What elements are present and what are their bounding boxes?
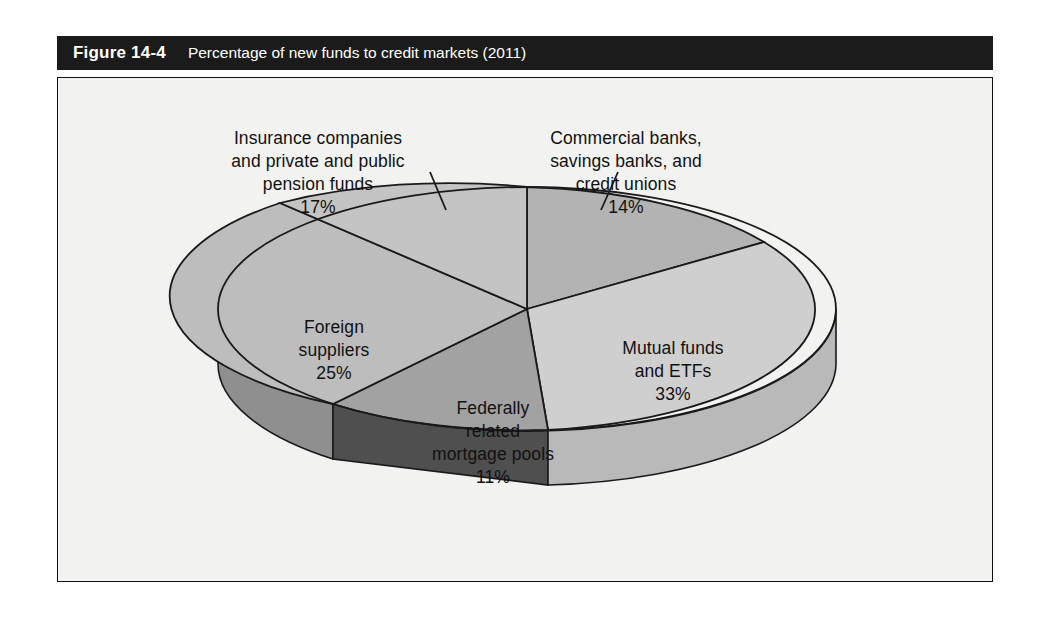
figure-number: Figure 14-4 bbox=[73, 43, 166, 63]
pie-label-federal-percent: 11% bbox=[388, 466, 598, 489]
pie-label-mutual-text: Mutual funds and ETFs bbox=[622, 338, 723, 381]
pie-label-federal-text: Federally related mortgage pools bbox=[432, 398, 554, 464]
pie-label-federal-mortgage-pools: Federally related mortgage pools 11% bbox=[388, 374, 598, 512]
pie-label-commercial-text: Commercial banks, savings banks, and cre… bbox=[550, 128, 702, 194]
figure-page: Figure 14-4 Percentage of new funds to c… bbox=[0, 0, 1050, 622]
pie-label-mutual-percent: 33% bbox=[578, 383, 768, 406]
pie-label-foreign-text: Foreign suppliers bbox=[299, 317, 370, 360]
pie-label-insurance-text: Insurance companies and private and publ… bbox=[231, 128, 404, 194]
pie-label-insurance-pension: Insurance companies and private and publ… bbox=[186, 104, 450, 242]
chart-panel: Insurance companies and private and publ… bbox=[57, 77, 993, 582]
figure-title-bar: Figure 14-4 Percentage of new funds to c… bbox=[57, 36, 993, 70]
pie-label-commercial-percent: 14% bbox=[494, 196, 758, 219]
pie-label-mutual-funds: Mutual funds and ETFs 33% bbox=[578, 314, 768, 429]
figure-caption: Percentage of new funds to credit market… bbox=[188, 44, 526, 62]
pie-label-commercial-banks: Commercial banks, savings banks, and cre… bbox=[494, 104, 758, 242]
pie-label-insurance-percent: 17% bbox=[186, 196, 450, 219]
